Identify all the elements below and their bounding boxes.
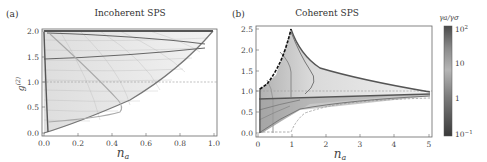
panel-b-ytick-label: 0.0	[241, 129, 253, 138]
panel-a-xtick-label: 0.0	[38, 139, 50, 148]
panel-b-xlabel: na	[334, 147, 347, 162]
panel-b-title: Coherent SPS	[295, 8, 359, 18]
panel-a-xlabel: na	[117, 146, 130, 161]
panel-a-ytick-label: 1.5	[27, 53, 39, 62]
colorbar-gradient	[444, 26, 452, 136]
panel-a-xtick-label: 0.8	[174, 139, 186, 148]
colorbar-tick: 10	[455, 59, 465, 68]
panel-a-xtick-label: 1.0	[208, 139, 220, 148]
panel-a-ytick-label: 1.0	[27, 78, 39, 87]
figure: (a) Incoherent SPS	[0, 0, 487, 162]
panel-b-xtick-label: 3	[358, 140, 363, 149]
panel-b-xtick-label: 1	[290, 140, 295, 149]
colorbar-label: γa/γσ	[439, 14, 459, 22]
panel-b-ytick-label: 1.0	[241, 87, 253, 96]
panel-a-label: (a)	[6, 9, 18, 19]
panel-b-xtick-label: 4	[392, 140, 397, 149]
panel-b-ytick-label: 2.5	[241, 25, 253, 34]
panel-b-ytick-label: 0.5	[241, 108, 253, 117]
panel-a-ytick-label: 0.5	[27, 103, 39, 112]
colorbar: γa/γσ 102 10 1 10−1	[439, 14, 473, 139]
colorbar-tick: 10−1	[455, 129, 473, 139]
panel-a-title: Incoherent SPS	[94, 8, 165, 18]
panel-a-xticks	[44, 133, 214, 136]
panel-a-xtick-label: 0.2	[72, 139, 84, 148]
panel-b-label: (b)	[232, 9, 245, 19]
panel-b: (b) Coherent SPS	[232, 8, 432, 162]
panel-b-xtick-label: 2	[324, 140, 329, 149]
panel-a-ylabel: g(2)	[14, 76, 26, 91]
panel-b-xtick-label: 5	[427, 140, 432, 149]
panel-a-xtick-label: 0.6	[140, 139, 152, 148]
colorbar-tick: 102	[455, 24, 468, 34]
panel-a-ytick-label: 0.0	[27, 129, 39, 138]
panel-b-xtick-label: 0	[256, 140, 261, 149]
panel-a: (a) Incoherent SPS	[6, 8, 220, 161]
panel-b-ytick-label: 1.5	[241, 67, 253, 76]
panel-b-xticks	[258, 134, 429, 137]
panel-b-yticks	[256, 29, 259, 133]
panel-b-lower-band	[259, 94, 430, 133]
panel-b-ytick-label: 2.0	[241, 46, 253, 55]
colorbar-tick: 1	[455, 94, 460, 103]
panel-a-ytick-label: 2.0	[27, 27, 39, 36]
